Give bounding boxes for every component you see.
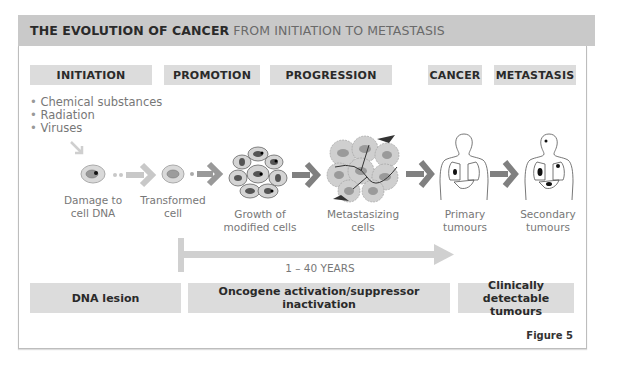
caption-damage: Damage tocell DNA <box>58 194 128 220</box>
arrow-icon <box>490 160 520 188</box>
body-primary-tumour-icon <box>438 132 490 202</box>
caption-primary: Primarytumours <box>430 208 500 234</box>
cause-item: Viruses <box>30 122 162 135</box>
title-bold: THE EVOLUTION OF CANCER <box>30 23 229 38</box>
arrow-icon <box>292 162 322 188</box>
box-oncogene-activation: Oncogene activation/suppressor inactivat… <box>188 283 450 313</box>
stage-metastasis: METASTASIS <box>494 65 576 85</box>
metastasizing-cells-icon <box>327 137 403 203</box>
stage-progression: PROGRESSION <box>270 65 392 85</box>
box-clinically-detectable: Clinically detectable tumours <box>458 283 574 313</box>
stage-promotion: PROMOTION <box>164 65 260 85</box>
stage-initiation: INITIATION <box>30 65 152 85</box>
dotted-arrow-icon <box>112 164 162 186</box>
title-light: FROM INITIATION TO METASTASIS <box>233 23 445 38</box>
caption-transformed: Transformedcell <box>135 194 211 220</box>
cell-cluster-icon <box>228 146 288 200</box>
caption-growth: Growth ofmodified cells <box>220 208 300 234</box>
damaged-cell-icon <box>80 164 106 184</box>
diagram-title: THE EVOLUTION OF CANCER FROM INITIATION … <box>18 15 595 46</box>
arrow-icon <box>406 160 436 188</box>
timeline-label: 1 – 40 YEARS <box>270 262 370 274</box>
diagonal-arrow-icon <box>70 141 86 157</box>
figure-label: Figure 5 <box>526 330 573 341</box>
body-secondary-tumour-icon <box>523 132 575 202</box>
transformed-cell-icon <box>161 164 185 184</box>
box-dna-lesion: DNA lesion <box>30 283 181 313</box>
caption-metastasizing: Metastasizingcells <box>323 208 403 234</box>
causes-list: Chemical substances Radiation Viruses <box>30 96 162 135</box>
stage-cancer: CANCER <box>428 65 482 85</box>
caption-secondary: Secondarytumours <box>512 208 584 234</box>
dotted-arrow-icon <box>189 162 229 186</box>
